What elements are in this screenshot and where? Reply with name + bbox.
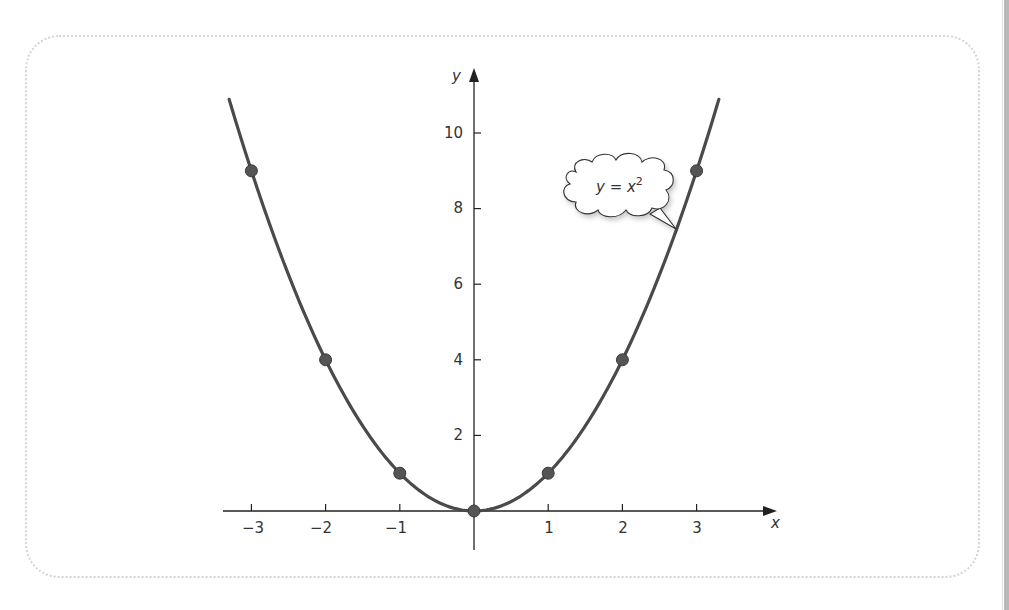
x-tick-label: −2 [310, 519, 332, 537]
x-tick-label: −1 [385, 519, 407, 537]
y-axis-label: y [451, 67, 462, 85]
x-tick-label: 3 [692, 519, 702, 537]
callout-tail [650, 208, 676, 229]
x-tick-labels: −3 −2 −1 1 2 3 [242, 519, 702, 537]
y-axis-ticks [474, 133, 481, 435]
y-tick-labels: 2 4 6 8 10 [444, 124, 463, 444]
data-point [542, 467, 554, 479]
data-point [245, 165, 257, 177]
data-point [616, 354, 628, 366]
y-tick-label: 4 [453, 351, 463, 369]
y-tick-label: 6 [453, 275, 463, 293]
y-tick-label: 8 [453, 199, 463, 217]
data-point [320, 354, 332, 366]
y-tick-label: 2 [453, 426, 463, 444]
y-tick-label: 10 [444, 124, 463, 142]
parabola-chart: −3 −2 −1 1 2 3 2 4 6 8 10 x y y = x2 [0, 0, 1009, 610]
data-point [691, 165, 703, 177]
x-tick-label: 1 [544, 519, 554, 537]
data-point [468, 505, 480, 517]
x-tick-label: −3 [242, 519, 264, 537]
y-axis [469, 68, 479, 550]
data-point [394, 467, 406, 479]
x-tick-label: 2 [618, 519, 628, 537]
x-axis-label: x [770, 514, 780, 532]
callout-text: y = x2 [595, 175, 643, 196]
